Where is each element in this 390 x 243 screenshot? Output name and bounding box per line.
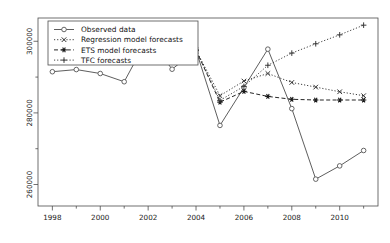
marker-asterisk — [313, 98, 318, 103]
marker-circle — [50, 69, 55, 74]
y-tick-label: 300000 — [25, 27, 34, 55]
marker-circle — [98, 71, 103, 76]
marker-plus — [289, 50, 295, 56]
marker-plus — [361, 22, 367, 28]
marker-circle — [290, 106, 295, 111]
legend-label: ETS model forecasts — [81, 46, 156, 55]
x-tick-label: 2010 — [331, 213, 350, 222]
y-tick-label: 280000 — [25, 99, 34, 127]
series-2 — [194, 48, 366, 98]
series-line — [196, 25, 364, 100]
marker-asterisk — [265, 94, 270, 99]
series-line — [196, 50, 364, 95]
chart-legend: Observed dataRegression model forecastsE… — [48, 21, 198, 65]
marker-asterisk — [337, 98, 342, 103]
marker-plus — [337, 32, 343, 38]
chart-container: 1998200020022004200620082010260000280000… — [0, 0, 390, 243]
marker-circle — [313, 177, 318, 182]
marker-cross-x — [266, 71, 271, 76]
marker-cross-x — [218, 93, 223, 98]
marker-circle — [122, 79, 127, 84]
marker-circle — [361, 148, 366, 153]
forecast-line-chart: 1998200020022004200620082010260000280000… — [0, 0, 390, 243]
marker-circle — [62, 27, 67, 32]
marker-circle — [170, 67, 175, 72]
marker-circle — [218, 123, 223, 128]
x-tick-label: 2006 — [235, 213, 254, 222]
marker-plus — [313, 41, 319, 47]
legend-label: Regression model forecasts — [81, 35, 183, 44]
x-tick-label: 1998 — [43, 213, 62, 222]
marker-circle — [266, 47, 271, 52]
x-tick-label: 2002 — [139, 213, 157, 222]
y-tick-label: 260000 — [25, 170, 34, 198]
legend-label: TFC forecasts — [80, 56, 131, 65]
marker-asterisk — [289, 97, 294, 102]
x-tick-label: 2000 — [91, 213, 110, 222]
marker-circle — [74, 67, 79, 72]
legend-label: Observed data — [81, 25, 136, 34]
marker-cross-x — [290, 80, 295, 85]
x-tick-label: 2004 — [187, 213, 206, 222]
marker-asterisk — [361, 98, 366, 103]
x-tick-label: 2008 — [283, 213, 302, 222]
marker-circle — [337, 164, 342, 169]
marker-cross-x — [242, 79, 247, 84]
